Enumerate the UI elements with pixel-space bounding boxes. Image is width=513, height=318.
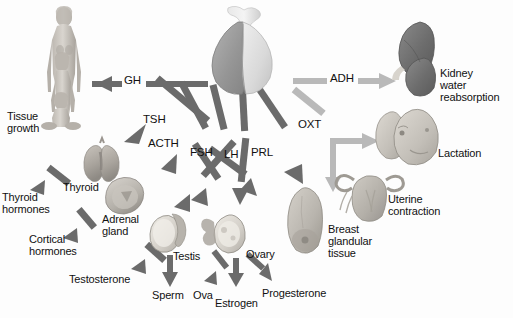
label-ova: Ova (193, 290, 213, 302)
posterior-lobe (242, 22, 272, 94)
prl-arrow (255, 85, 303, 184)
label-testosterone: Testosterone (69, 274, 130, 286)
label-progesterone: Progesterone (262, 288, 326, 300)
label-breast-glandular-tissue: Breast glandular tissue (328, 224, 372, 260)
label-testis: Testis (173, 251, 200, 263)
fsh-lh-crossing-arrows (174, 138, 257, 212)
label-tissue-growth: Tissue growth (7, 111, 39, 135)
hormone-label-prl: PRL (251, 146, 273, 158)
nursing-infant (376, 109, 439, 164)
label-sperm: Sperm (152, 290, 184, 302)
pituitary-gland (212, 6, 272, 94)
label-kidney-water-reabsorption: Kidney water reabsorption (440, 68, 499, 104)
testis (150, 214, 186, 252)
pituitary-hormone-diagram: GH TSH ACTH FSH LH PRL ADH OXT Tissue gr… (0, 0, 513, 318)
thyroid-gland (84, 138, 119, 182)
hormone-label-tsh: TSH (143, 113, 166, 125)
hormone-label-gh: GH (124, 74, 141, 86)
gh-arrow (92, 76, 208, 92)
hormone-label-acth: ACTH (148, 137, 179, 149)
hormone-label-lh: LH (224, 148, 238, 160)
hormone-label-oxt: OXT (298, 118, 321, 130)
label-thyroid: Thyroid (63, 182, 99, 194)
ova-arrow (204, 249, 229, 285)
label-thyroid-hormones: Thyroid hormones (2, 192, 50, 216)
kidney (392, 22, 436, 96)
estrogen-arrow (228, 258, 244, 287)
ovary (201, 215, 245, 253)
label-cortical-hormones: Cortical hormones (29, 234, 77, 258)
label-estrogen: Estrogen (215, 298, 258, 310)
hormone-label-adh: ADH (330, 72, 354, 84)
label-ovary: Ovary (246, 249, 275, 261)
adrenal-gland (106, 177, 144, 214)
hormone-label-fsh: FSH (190, 146, 213, 158)
label-lactation: Lactation (438, 148, 481, 160)
breast (288, 188, 323, 253)
label-adrenal-gland: Adrenal gland (102, 214, 139, 238)
growth-figures (41, 6, 81, 130)
infant-figure (41, 92, 81, 130)
diagram-artwork (0, 0, 513, 318)
label-uterine-contraction: Uterine contraction (388, 194, 440, 218)
